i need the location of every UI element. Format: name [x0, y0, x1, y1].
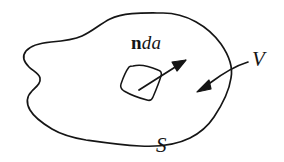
area-element-symbol: da — [142, 32, 161, 53]
normal-area-vector-label: nda — [131, 33, 161, 52]
closed-surface-outline — [24, 13, 232, 146]
area-element-patch — [121, 65, 162, 100]
normal-vector-arrow — [139, 60, 186, 90]
normal-vector-symbol: n — [131, 32, 142, 53]
diagram-svg — [0, 0, 284, 162]
figure-canvas: nda V S — [0, 0, 284, 162]
volume-leader-arrow — [197, 62, 248, 92]
volume-label: V — [252, 49, 265, 70]
surface-label: S — [156, 135, 167, 156]
